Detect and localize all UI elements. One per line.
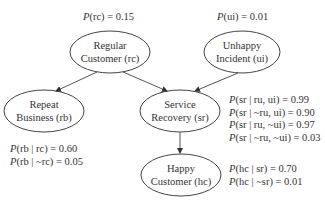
prob-rc: P(rc) = 0.15 (83, 11, 134, 24)
label-repeat-business: Repeat Business (rb) (4, 98, 84, 124)
edge-rc-to-rb (56, 72, 97, 91)
label-line1: Regular (70, 39, 150, 52)
label-line2: Business (rb) (4, 111, 84, 124)
label-line2: Customer (hc) (141, 175, 221, 188)
label-line2: Recovery (sr) (140, 111, 220, 124)
label-service-recovery: Service Recovery (sr) (140, 98, 220, 124)
label-unhappy-incident: Unhappy Incident (ui) (202, 39, 282, 65)
prob-ui: P(ui) = 0.01 (217, 11, 268, 24)
edge-ui-to-sr (195, 73, 238, 91)
label-line1: Repeat (4, 98, 84, 111)
label-line2: Customer (rc) (70, 52, 150, 65)
label-line2: Incident (ui) (202, 52, 282, 65)
prob-sr-table: P(sr | ru, ui) = 0.99 P(sr | ~ru, ui) = … (229, 94, 320, 144)
prob-rb-table: P(rb | rc) = 0.60 P(rb | ~rc) = 0.05 (10, 143, 83, 168)
prob-hc-table: P(hc | sr) = 0.70 P(hc | ~sr) = 0.01 (229, 163, 303, 188)
label-line1: Happy (141, 162, 221, 175)
label-line1: Service (140, 98, 220, 111)
label-happy-customer: Happy Customer (hc) (141, 162, 221, 188)
label-line1: Unhappy (202, 39, 282, 52)
edge-rc-to-sr (123, 72, 167, 91)
label-regular-customer: Regular Customer (rc) (70, 39, 150, 65)
